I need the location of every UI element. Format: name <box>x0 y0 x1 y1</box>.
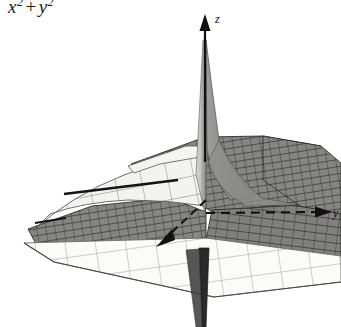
surface-mesh <box>24 136 341 297</box>
y-axis-label: y <box>333 206 338 221</box>
surface-plot-figure: x2+y2 <box>0 0 341 327</box>
surface-plot-canvas <box>0 0 341 327</box>
z-axis-label: z <box>215 12 220 27</box>
